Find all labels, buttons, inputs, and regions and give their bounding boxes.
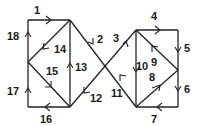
- edge-label-10: 10: [136, 60, 148, 72]
- edge-8: [136, 70, 178, 107]
- edge-label-7: 7: [151, 113, 157, 125]
- edge-label-11: 11: [111, 87, 123, 99]
- edge-label-5: 5: [184, 42, 190, 54]
- graph-diagram: 1 2 3 4 5 6 7 8 9 10 11 12 13 14 15 16 1…: [0, 0, 197, 126]
- edge-label-13: 13: [75, 61, 87, 73]
- edge-label-3: 3: [113, 32, 119, 44]
- edge-label-12: 12: [90, 92, 102, 104]
- edge-label-8: 8: [149, 71, 155, 83]
- arrow-2-icon: [88, 38, 93, 44]
- edge-label-15: 15: [46, 65, 58, 77]
- edge-label-14: 14: [54, 43, 67, 55]
- edge-label-16: 16: [40, 113, 52, 125]
- edge-label-17: 17: [7, 85, 19, 97]
- arrow-11-icon: [120, 75, 126, 81]
- edge-label-9: 9: [151, 56, 157, 68]
- edge-label-2: 2: [97, 33, 103, 45]
- edge-label-1: 1: [34, 4, 40, 16]
- edge-label-18: 18: [7, 30, 19, 42]
- edge-label-6: 6: [184, 83, 190, 95]
- arrow-3-icon: [123, 41, 128, 47]
- edge-label-4: 4: [151, 10, 158, 22]
- edge-14: [28, 20, 70, 62]
